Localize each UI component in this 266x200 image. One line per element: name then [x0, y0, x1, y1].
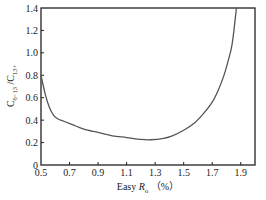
y-tick-label: 1.4 [26, 3, 39, 14]
x-tick-label: 1.3 [149, 167, 162, 178]
x-tick-label: 0.7 [63, 167, 76, 178]
y-axis-label: C6−13 /C13+ [5, 65, 18, 108]
y-tick-label: 0 [33, 160, 38, 171]
x-tick-label: 1.5 [177, 167, 190, 178]
y-tick-label: 0.6 [26, 92, 39, 103]
data-line [41, 8, 236, 140]
x-tick-label: 0.9 [92, 167, 105, 178]
chart: 0.50.70.91.11.31.51.71.9 00.20.40.60.81.… [0, 0, 266, 200]
x-tick-label: 1.9 [234, 167, 247, 178]
x-tick-label: 1.7 [206, 167, 219, 178]
y-tick-label: 0.8 [26, 70, 39, 81]
y-tick-label: 1.0 [26, 47, 39, 58]
y-tick-label: 0.2 [26, 137, 39, 148]
plot-area [41, 8, 255, 165]
y-tick-label: 0.4 [26, 115, 39, 126]
x-axis-label: Easy Ro （%） [117, 181, 179, 195]
x-tick-label: 1.1 [120, 167, 133, 178]
y-tick-label: 1.2 [26, 25, 39, 36]
